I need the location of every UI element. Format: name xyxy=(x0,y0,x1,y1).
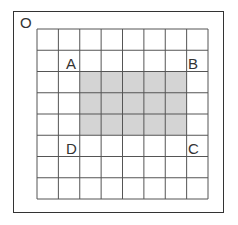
point-d-label: D xyxy=(66,141,77,156)
shaded-region xyxy=(80,72,187,136)
grid xyxy=(0,0,238,225)
point-c-label: C xyxy=(188,141,199,156)
point-a-label: A xyxy=(66,56,76,71)
point-b-label: B xyxy=(188,56,198,71)
